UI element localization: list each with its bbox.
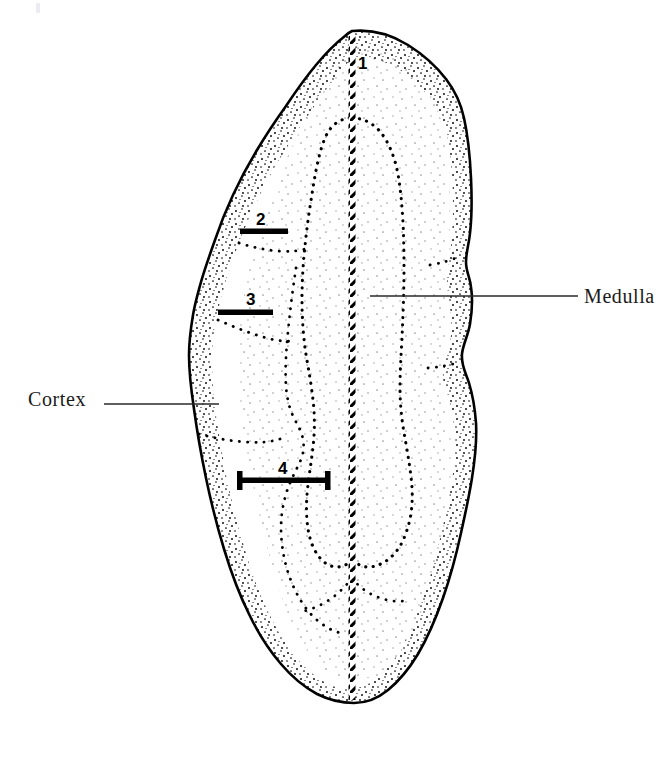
medulla-label: Medulla: [584, 285, 655, 308]
hair-anatomy-diagram: [0, 0, 658, 759]
callout-number-3: 3: [246, 290, 255, 310]
callout-number-1: 1: [358, 54, 367, 74]
cortex-label: Cortex: [28, 388, 86, 411]
callout-number-2: 2: [256, 210, 265, 230]
callout-bar-3: [218, 310, 273, 316]
central-axis-hatched-line: [349, 36, 356, 700]
callout-number-4: 4: [278, 459, 287, 479]
